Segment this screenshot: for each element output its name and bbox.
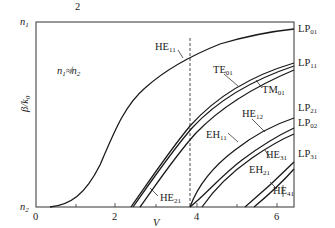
label-HE21-lower: HE21 xyxy=(160,192,182,205)
svg-text:0: 0 xyxy=(33,211,38,222)
label-LP21: LP21 xyxy=(298,102,318,115)
top-label: 2 xyxy=(75,1,80,12)
y-label-n1: n1 xyxy=(20,16,29,29)
label-HE31: HE31 xyxy=(266,149,288,162)
label-HE11: HE11 xyxy=(155,41,176,54)
label-LP02: LP02 xyxy=(298,117,318,130)
index-relation-annotation: n1≉n2 xyxy=(57,65,81,78)
label-HE41: HE41 xyxy=(273,185,295,198)
svg-text:2: 2 xyxy=(112,211,117,222)
label-HE12: HE12 xyxy=(242,108,264,121)
svg-text:4: 4 xyxy=(194,211,200,222)
svg-text:6: 6 xyxy=(274,211,279,222)
label-LP31: LP31 xyxy=(298,148,318,161)
y-label-n2: n2 xyxy=(20,201,29,214)
x-axis-label: V xyxy=(153,217,161,228)
label-LP11: LP11 xyxy=(298,57,318,70)
label-TM01: TM01 xyxy=(262,84,285,97)
label-LP01: LP01 xyxy=(298,23,318,36)
label-TE01: TE01 xyxy=(213,64,233,77)
curve-HE31 xyxy=(202,134,294,207)
mode-dispersion-chart: 2 0 2 4 6 V n1 n2 β/k0 n1≉n2 xyxy=(0,0,335,228)
label-EH11: EH11 xyxy=(206,129,227,142)
y-axis-label: β/k0 xyxy=(19,95,32,113)
lp-labels: LP01 LP11 LP21 LP02 LP31 xyxy=(298,23,318,161)
label-EH21: EH21 xyxy=(249,164,271,177)
